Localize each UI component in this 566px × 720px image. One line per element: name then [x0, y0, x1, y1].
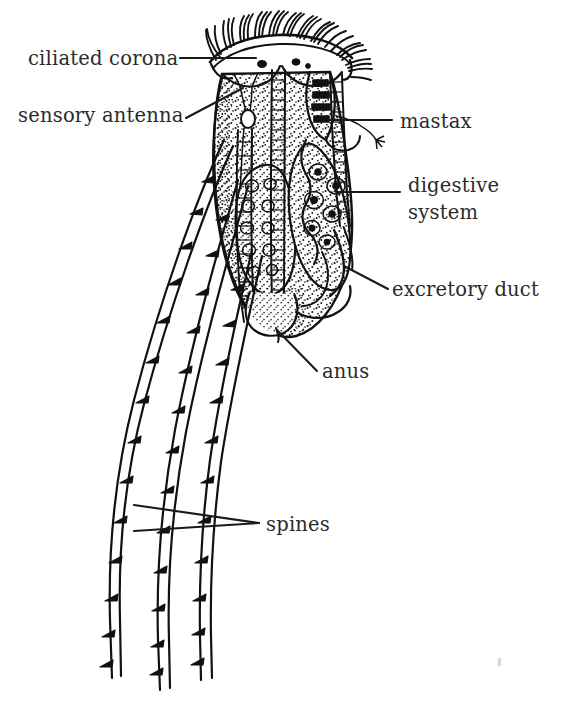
- label-digestive-system-line2: system: [408, 201, 478, 224]
- label-excretory-duct: excretory duct: [392, 278, 539, 301]
- label-ciliated-corona: ciliated corona: [28, 47, 178, 70]
- scan-speck: [498, 658, 501, 666]
- rotifer-figure: ciliated corona sensory antenna mastax d…: [0, 0, 566, 720]
- eyespot-left: [258, 61, 267, 68]
- eyespot-right: [292, 59, 300, 65]
- antenna-vesicle: [241, 110, 255, 128]
- label-anus: anus: [322, 360, 370, 383]
- label-spines: spines: [266, 513, 330, 536]
- eyespot-small: [306, 64, 311, 69]
- rotifer-diagram-canvas: ciliated corona sensory antenna mastax d…: [0, 0, 566, 720]
- label-mastax: mastax: [400, 110, 472, 133]
- label-sensory-antenna: sensory antenna: [18, 104, 184, 127]
- label-digestive-system-line1: digestive: [408, 174, 499, 197]
